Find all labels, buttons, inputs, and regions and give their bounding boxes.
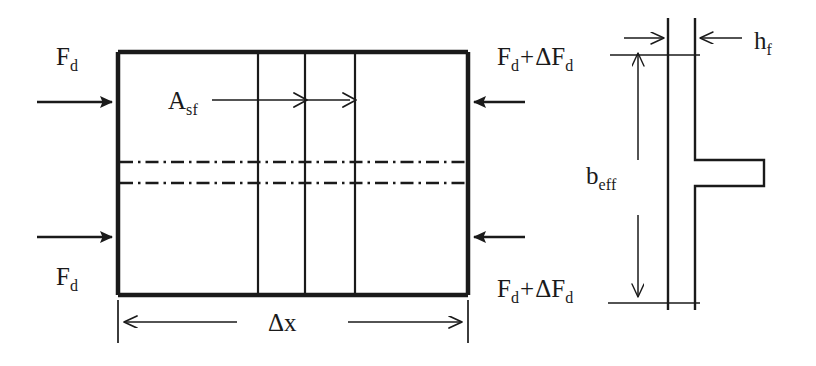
label-force-right-bottom: Fd+ΔFd — [497, 276, 573, 301]
beff-dimension — [608, 53, 700, 303]
shear-area-leader — [212, 93, 356, 107]
label-length-increment: Δx — [268, 310, 297, 335]
hf-dimension — [610, 38, 742, 55]
force-arrows — [37, 102, 525, 237]
label-area-shear-flange: Asf — [168, 88, 198, 113]
label-effective-width: beff — [586, 163, 617, 188]
internal-division-lines — [258, 52, 355, 295]
tee-cross-section — [668, 18, 764, 310]
label-force-left-top: Fd — [56, 44, 78, 69]
label-flange-thickness: hf — [754, 28, 772, 53]
label-force-left-bottom: Fd — [56, 264, 78, 289]
centerlines — [120, 162, 466, 183]
engineering-diagram: Fd Fd Fd+ΔFd Fd+ΔFd Asf Δx beff hf — [0, 0, 816, 366]
flange-inner-face-with-web — [695, 18, 764, 310]
diagram-canvas — [0, 0, 816, 366]
label-force-right-top: Fd+ΔFd — [497, 44, 573, 69]
